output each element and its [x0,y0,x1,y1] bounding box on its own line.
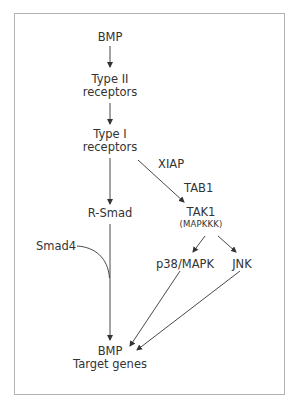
node-xiap: XIAP [158,158,184,171]
node-rsmad: R-Smad [88,207,133,220]
node-type2-line2: receptors [83,85,138,99]
node-smad4: Smad4 [36,240,76,253]
node-tab1-label: TAB1 [184,181,213,195]
pathway-arrows [0,0,300,411]
node-xiap-label: XIAP [158,157,184,171]
node-target-line2: Target genes [73,357,147,371]
node-rsmad-label: R-Smad [88,206,133,220]
node-type1-line2: receptors [83,140,138,154]
node-jnk-label: JNK [232,257,252,271]
arrow-jnk-to-target [137,271,240,350]
node-bmp: BMP [98,31,123,44]
node-tak1-label: TAK1 [187,205,216,219]
node-bmp-target-genes: BMP Target genes [73,345,147,371]
node-type1-line1: Type I [93,127,126,141]
arrow-tak1-to-p38 [193,236,205,252]
node-p38-mapk: p38/MAPK [156,258,214,271]
node-tak1: TAK1 (MAPKKK) [179,206,222,229]
node-type2-receptors: Type II receptors [83,73,138,99]
node-target-line1: BMP [98,344,123,358]
node-jnk: JNK [232,258,252,271]
node-type1-receptors: Type I receptors [83,128,138,154]
node-bmp-label: BMP [98,30,123,44]
arrow-p38-to-target [130,271,180,346]
node-smad4-label: Smad4 [36,239,76,253]
node-type2-line1: Type II [92,72,129,86]
node-p38-label: p38/MAPK [156,257,214,271]
smad4-join-curve [77,246,110,278]
node-tak1-sublabel: (MAPKKK) [179,219,222,229]
node-tab1: TAB1 [184,182,213,195]
arrow-tak1-to-jnk [218,236,236,252]
